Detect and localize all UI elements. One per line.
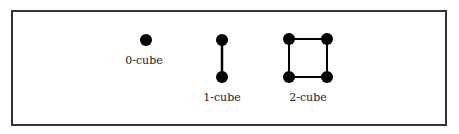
vertex xyxy=(321,33,333,45)
vertex xyxy=(283,33,295,45)
one-cube xyxy=(216,34,228,83)
vertex xyxy=(321,71,333,83)
label-2-cube: 2-cube xyxy=(289,91,327,104)
hypercube-diagram xyxy=(0,0,459,134)
vertex xyxy=(140,34,152,46)
edges xyxy=(289,39,327,77)
vertex xyxy=(216,71,228,83)
vertex xyxy=(283,71,295,83)
label-1-cube: 1-cube xyxy=(203,91,241,104)
zero-cube xyxy=(140,34,152,46)
two-cube xyxy=(283,33,333,83)
label-0-cube: 0-cube xyxy=(125,54,163,67)
vertex xyxy=(216,34,228,46)
